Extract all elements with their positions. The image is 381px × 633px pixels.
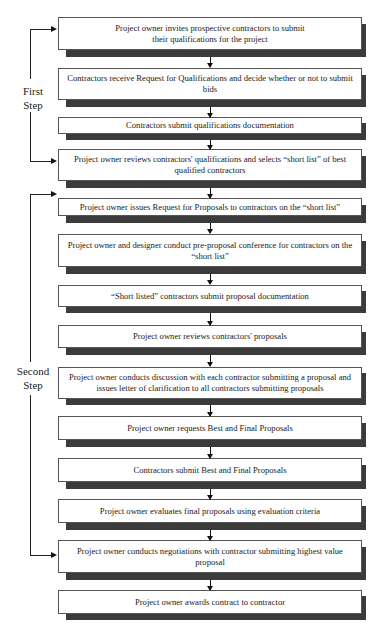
- first-step-top-arrowhead-icon: [51, 26, 57, 32]
- flow-box-12-text: Project owner evaluates final proposals …: [100, 506, 320, 517]
- flow-box-10-text: Project owner requests Best and Final Pr…: [127, 423, 293, 434]
- flow-box-7-submit-proposal-docs: “Short listed” contractors submit propos…: [58, 285, 362, 307]
- flow-box-6-pre-proposal-conference: Project owner and designer conduct pre-p…: [58, 234, 362, 267]
- flow-box-9-text: Project owner conducts discussion with e…: [67, 372, 353, 394]
- flow-box-1-text: Project owner invites prospective contra…: [110, 23, 310, 45]
- flow-box-4-text: Project owner reviews contractors' quali…: [67, 154, 353, 176]
- first-step-label-line2: Step: [8, 98, 58, 112]
- flow-box-13-text: Project owner conducts negotiations with…: [67, 546, 353, 568]
- arrow-8-to-9: [210, 355, 211, 366]
- flow-box-6-text: Project owner and designer conduct pre-p…: [67, 240, 353, 262]
- first-step-label: First Step: [8, 84, 58, 112]
- arrow-3-to-4: [210, 140, 211, 149]
- second-step-bottom-arrowhead-icon: [51, 552, 57, 558]
- flow-box-11-submit-bafo: Contractors submit Best and Final Propos…: [58, 458, 362, 482]
- second-step-bracket-lower-vertical: [30, 395, 31, 556]
- flow-box-11-text: Contractors submit Best and Final Propos…: [133, 465, 286, 476]
- arrow-7-to-8: [210, 313, 211, 325]
- flow-box-8-review-proposals: Project owner reviews contractors' propo…: [58, 325, 362, 348]
- flow-box-3-text: Contractors submit qualifications docume…: [126, 120, 294, 131]
- arrow-4-to-5: [210, 188, 211, 198]
- first-step-bracket-upper-vertical: [30, 29, 31, 79]
- arrow-2-to-3: [210, 107, 211, 117]
- flow-box-10-request-bafo: Project owner requests Best and Final Pr…: [58, 416, 362, 440]
- second-step-label-line1: Second: [8, 364, 58, 378]
- flow-box-1-invite-qualifications: Project owner invites prospective contra…: [58, 17, 362, 50]
- arrow-10-to-11: [210, 447, 211, 458]
- flow-box-2-text: Contractors receive Request for Qualific…: [67, 73, 353, 95]
- second-step-top-arrowhead-icon: [51, 191, 57, 197]
- first-step-bracket-bottom-horizontal: [30, 161, 52, 162]
- arrow-13-to-14: [210, 580, 211, 590]
- flow-box-5-text: Project owner issues Request for Proposa…: [80, 202, 340, 213]
- first-step-bracket-top-horizontal: [30, 29, 52, 30]
- flow-box-2-receive-rfq: Contractors receive Request for Qualific…: [58, 68, 362, 100]
- second-step-bracket-upper-vertical: [30, 194, 31, 362]
- flow-box-14-award-contract: Project owner awards contract to contrac…: [58, 590, 362, 614]
- arrow-11-to-12: [210, 489, 211, 499]
- arrow-6-to-7: [210, 274, 211, 284]
- flow-box-4-short-list: Project owner reviews contractors' quali…: [58, 149, 362, 181]
- first-step-bottom-arrowhead-icon: [51, 158, 57, 164]
- arrow-1-to-2: [210, 57, 211, 67]
- first-step-bracket-lower-vertical: [30, 112, 31, 162]
- arrow-12-to-13: [210, 530, 211, 540]
- flow-box-8-text: Project owner reviews contractors' propo…: [133, 331, 287, 342]
- second-step-label-line2: Step: [8, 378, 58, 392]
- flow-box-13-negotiations: Project owner conducts negotiations with…: [58, 540, 362, 573]
- flow-box-3-submit-qualifications: Contractors submit qualifications docume…: [58, 117, 362, 134]
- flow-box-12-evaluate-proposals: Project owner evaluates final proposals …: [58, 499, 362, 523]
- second-step-bracket-bottom-horizontal: [30, 555, 52, 556]
- flow-box-9-discussion-clarification: Project owner conducts discussion with e…: [58, 367, 362, 399]
- flow-box-14-text: Project owner awards contract to contrac…: [135, 597, 285, 608]
- flow-box-5-issue-rfp: Project owner issues Request for Proposa…: [58, 198, 362, 216]
- second-step-label: Second Step: [8, 364, 58, 392]
- second-step-bracket-top-horizontal: [30, 194, 52, 195]
- flow-box-7-text: “Short listed” contractors submit propos…: [111, 291, 309, 302]
- arrow-5-to-6: [210, 223, 211, 233]
- first-step-label-line1: First: [8, 84, 58, 98]
- arrow-9-to-10: [210, 405, 211, 416]
